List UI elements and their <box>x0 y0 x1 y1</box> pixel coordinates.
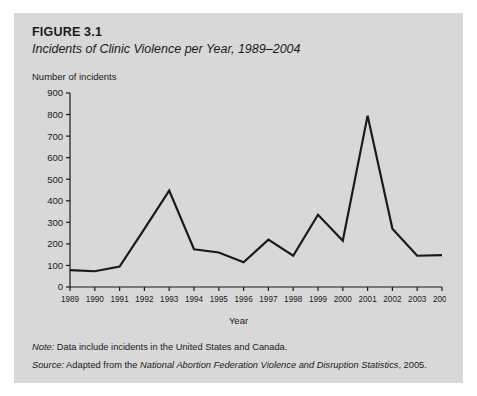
y-axis-tick-label: 500 <box>47 174 63 185</box>
x-axis-tick-label: 1989 <box>61 295 80 304</box>
x-axis-tick-label: 1997 <box>259 295 278 304</box>
y-axis-tick-label: 700 <box>47 131 63 142</box>
y-axis-tick-label: 300 <box>47 217 63 228</box>
x-axis-tick-label: 2002 <box>383 295 402 304</box>
figure-panel: FIGURE 3.1 Incidents of Clinic Violence … <box>14 13 463 383</box>
source-publication-title: National Abortion Federation Violence an… <box>140 360 398 370</box>
x-axis-tick-label: 1992 <box>135 295 154 304</box>
x-axis-tick-label: 1993 <box>160 295 179 304</box>
note-line: Note: Data include incidents in the Unit… <box>32 338 450 356</box>
source-line: Source: Adapted from the National Aborti… <box>32 356 450 374</box>
y-axis-title: Number of incidents <box>32 71 116 82</box>
x-axis-tick-label: 1998 <box>284 295 303 304</box>
x-axis-tick-label: 1996 <box>234 295 253 304</box>
x-axis-tick-label: 1994 <box>185 295 204 304</box>
y-axis-tick-label: 400 <box>47 195 63 206</box>
figure-caption: Incidents of Clinic Violence per Year, 1… <box>32 41 442 57</box>
x-axis-tick-label: 1991 <box>110 295 129 304</box>
source-label: Source: <box>32 360 64 370</box>
y-axis-tick-label: 100 <box>47 260 63 271</box>
y-axis-tick-label: 800 <box>47 109 63 120</box>
source-suffix: , 2005. <box>398 360 426 370</box>
x-axis-tick-label: 2000 <box>334 295 353 304</box>
x-axis-tick-label: 1995 <box>210 295 229 304</box>
line-chart-plot: 0100200300400500600700800900198919901991… <box>32 87 446 315</box>
x-axis-tick-label: 1990 <box>86 295 105 304</box>
note-label: Note: <box>32 342 54 352</box>
y-axis-tick-label: 0 <box>58 281 63 292</box>
title-block: FIGURE 3.1 Incidents of Clinic Violence … <box>32 25 442 57</box>
figure-notes: Note: Data include incidents in the Unit… <box>32 338 450 374</box>
x-axis-tick-label: 2001 <box>358 295 377 304</box>
x-axis-tick-label: 2003 <box>408 295 427 304</box>
x-axis-tick-label: 1999 <box>309 295 328 304</box>
figure-number: FIGURE 3.1 <box>32 25 442 40</box>
note-text: Data include incidents in the United Sta… <box>54 342 287 352</box>
x-axis-tick-label: 2004 <box>433 295 446 304</box>
y-axis-tick-label: 900 <box>47 87 63 98</box>
x-axis-title: Year <box>14 315 463 326</box>
data-series-line <box>70 116 442 272</box>
chart-svg: 0100200300400500600700800900198919901991… <box>32 87 446 315</box>
y-axis-tick-label: 600 <box>47 152 63 163</box>
source-prefix: Adapted from the <box>64 360 140 370</box>
y-axis-tick-label: 200 <box>47 238 63 249</box>
